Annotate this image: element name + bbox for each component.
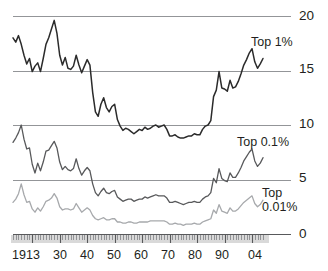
y-tick-label-10: 10 xyxy=(299,116,314,131)
x-tick-label-1980: 80 xyxy=(182,248,208,262)
y-tick-label-20: 20 xyxy=(299,8,314,23)
series-label-top-0-01-percent-line1: Top xyxy=(262,186,297,200)
series-lines xyxy=(13,20,263,225)
income-share-chart: 20 15 10 5 0 1913 30 40 50 60 70 80 90 0… xyxy=(0,0,328,271)
x-tick-label-1940: 40 xyxy=(74,248,100,262)
series-label-top-1-percent: Top 1% xyxy=(251,35,293,49)
gridlines xyxy=(13,17,291,235)
x-tick-label-1990: 90 xyxy=(209,248,235,262)
x-axis-minor-ticks xyxy=(11,235,269,243)
x-tick-label-1970: 70 xyxy=(155,248,181,262)
series-line-top-0-01-percent xyxy=(13,184,263,225)
y-tick-label-5: 5 xyxy=(299,170,307,185)
x-tick-label-1930: 30 xyxy=(47,248,73,262)
x-tick-label-2004: 04 xyxy=(242,248,268,262)
y-tick-label-0: 0 xyxy=(299,226,307,241)
series-label-top-0-1-percent: Top 0.1% xyxy=(237,135,289,149)
series-line-top-1-percent xyxy=(13,20,263,138)
x-tick-label-1960: 60 xyxy=(128,248,154,262)
x-tick-label-1950: 50 xyxy=(101,248,127,262)
y-tick-label-15: 15 xyxy=(299,61,314,76)
series-label-top-0-01-percent: Top 0.01% xyxy=(262,186,297,214)
x-tick-label-1913: 1913 xyxy=(2,248,50,262)
series-line-top-0-1-percent xyxy=(13,125,263,205)
series-label-top-0-01-percent-line2: 0.01% xyxy=(262,200,297,214)
